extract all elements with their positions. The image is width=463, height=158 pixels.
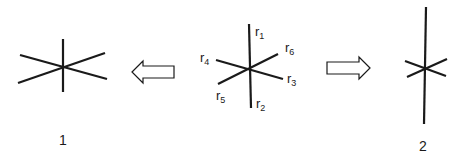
ray-label-r3: r3 <box>287 71 296 88</box>
figure-1-label: 1 <box>59 132 67 148</box>
right-arrow-icon <box>327 57 370 79</box>
ray-label-r1: r1 <box>255 24 264 41</box>
figure-1-star <box>18 39 107 92</box>
figure-2-label: 2 <box>419 138 427 154</box>
ray-label-r4: r4 <box>200 50 209 67</box>
ray-label-r2: r2 <box>256 96 265 113</box>
ray-label-r6: r6 <box>285 40 294 57</box>
diagram-canvas: r1 r2 r3 r4 r5 r6 1 2 <box>0 0 463 158</box>
figure-2-star <box>405 7 447 124</box>
ray-label-r5: r5 <box>216 88 225 105</box>
center-star <box>216 24 283 108</box>
left-arrow-icon <box>132 61 174 83</box>
